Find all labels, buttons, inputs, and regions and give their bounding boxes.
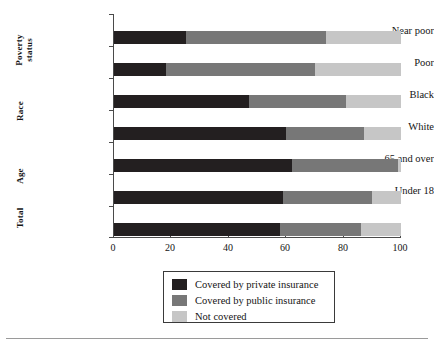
y-axis-tick bbox=[109, 110, 113, 111]
bar-segment-1 bbox=[166, 63, 315, 76]
chart-legend: Covered by private insurance Covered by … bbox=[163, 271, 335, 323]
group-label-line1: Age bbox=[15, 168, 25, 184]
bar-segment-0 bbox=[114, 223, 280, 236]
bar-segment-2 bbox=[326, 31, 401, 44]
y-axis-tick bbox=[109, 206, 113, 207]
y-axis-tick bbox=[109, 78, 113, 79]
x-axis-tick-label: 100 bbox=[385, 242, 415, 253]
bar-segment-2 bbox=[361, 223, 401, 236]
x-axis-tick-label: 60 bbox=[270, 242, 300, 253]
bar-segment-1 bbox=[186, 31, 327, 44]
bar-segment-0 bbox=[114, 159, 292, 172]
group-label-line1: Total bbox=[15, 208, 25, 229]
bar-segment-1 bbox=[249, 95, 347, 108]
plot-area: 0 20 40 60 80 100 bbox=[113, 14, 401, 238]
bar-segment-0 bbox=[114, 127, 286, 140]
bar-segment-2 bbox=[315, 63, 401, 76]
x-axis-tick-label: 80 bbox=[328, 242, 358, 253]
x-axis-tick-label: 40 bbox=[213, 242, 243, 253]
bar-segment-2 bbox=[346, 95, 401, 108]
chart-figure: Poverty status Race Age Total Near poor … bbox=[0, 0, 434, 349]
bar-segment-2 bbox=[372, 191, 401, 204]
y-axis-tick bbox=[109, 14, 113, 15]
legend-label-public: Covered by public insurance bbox=[195, 295, 315, 306]
y-axis-line bbox=[113, 14, 114, 238]
legend-item-public[interactable]: Covered by public insurance bbox=[172, 293, 315, 307]
legend-item-not-covered[interactable]: Not covered bbox=[172, 309, 247, 323]
x-axis-tick-label: 0 bbox=[98, 242, 128, 253]
y-axis-tick bbox=[109, 174, 113, 175]
bar-segment-1 bbox=[280, 223, 360, 236]
legend-label-private: Covered by private insurance bbox=[195, 279, 318, 290]
footer-rule bbox=[6, 338, 428, 339]
group-label-total: Total bbox=[15, 188, 25, 248]
legend-label-not-covered: Not covered bbox=[195, 311, 247, 322]
group-label-line1: Race bbox=[15, 101, 25, 121]
x-axis-line bbox=[113, 237, 401, 238]
bar-segment-0 bbox=[114, 63, 166, 76]
bar-segment-0 bbox=[114, 31, 186, 44]
bar-segment-2 bbox=[398, 159, 401, 172]
y-axis-tick bbox=[109, 46, 113, 47]
group-label-race: Race bbox=[15, 81, 25, 141]
group-label-line1: Poverty bbox=[14, 34, 24, 65]
legend-swatch-private bbox=[172, 279, 187, 290]
bar-segment-2 bbox=[364, 127, 401, 140]
bar-segment-0 bbox=[114, 191, 283, 204]
x-axis-tick-label: 20 bbox=[155, 242, 185, 253]
bar-segment-1 bbox=[286, 127, 363, 140]
bar-segment-1 bbox=[283, 191, 372, 204]
legend-swatch-public bbox=[172, 295, 187, 306]
bar-segment-0 bbox=[114, 95, 249, 108]
group-label-poverty-status: Poverty status bbox=[14, 20, 34, 80]
group-label-line2: status bbox=[24, 20, 34, 80]
y-axis-tick bbox=[109, 142, 113, 143]
bar-segment-1 bbox=[292, 159, 398, 172]
legend-swatch-not-covered bbox=[172, 311, 187, 322]
legend-item-private[interactable]: Covered by private insurance bbox=[172, 277, 318, 291]
